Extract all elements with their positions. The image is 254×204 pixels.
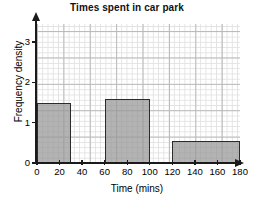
x-axis-tick-label: 180 bbox=[228, 166, 252, 177]
x-axis-tick-label: 140 bbox=[183, 166, 207, 177]
y-axis-tick-label: 1 bbox=[20, 117, 30, 128]
x-axis-tick-label: 100 bbox=[138, 166, 162, 177]
y-axis-arrow-icon bbox=[32, 12, 40, 21]
histogram-figure: Times spent in car park Time (mins) Freq… bbox=[0, 0, 254, 204]
x-axis-tick bbox=[127, 160, 128, 165]
y-axis-tick bbox=[32, 41, 37, 42]
x-axis-tick-label: 20 bbox=[48, 166, 72, 177]
x-axis-tick bbox=[59, 160, 60, 165]
x-axis-tick-label: 160 bbox=[205, 166, 229, 177]
x-axis-tick bbox=[194, 160, 195, 165]
x-axis-tick-label: 80 bbox=[115, 166, 139, 177]
x-axis-tick bbox=[217, 160, 218, 165]
x-axis-line bbox=[36, 162, 237, 164]
histogram-bar bbox=[172, 141, 240, 163]
y-axis-tick bbox=[32, 122, 37, 123]
y-axis-tick bbox=[32, 162, 37, 163]
y-axis-tick bbox=[32, 82, 37, 83]
y-axis-tick-label: 3 bbox=[20, 36, 30, 47]
y-axis-tick-label: 0 bbox=[20, 157, 30, 168]
histogram-bar bbox=[37, 103, 71, 163]
x-axis-tick bbox=[172, 160, 173, 165]
x-axis-tick-label: 60 bbox=[93, 166, 117, 177]
x-axis-tick bbox=[149, 160, 150, 165]
plot-area bbox=[37, 24, 240, 163]
x-axis-tick bbox=[239, 160, 240, 165]
y-axis-tick-label: 2 bbox=[20, 76, 30, 87]
x-axis-tick-label: 120 bbox=[160, 166, 184, 177]
x-axis-tick-label: 40 bbox=[70, 166, 94, 177]
x-axis-title: Time (mins) bbox=[37, 183, 237, 194]
x-axis-tick bbox=[81, 160, 82, 165]
x-axis-tick bbox=[104, 160, 105, 165]
histogram-bar bbox=[105, 99, 150, 163]
